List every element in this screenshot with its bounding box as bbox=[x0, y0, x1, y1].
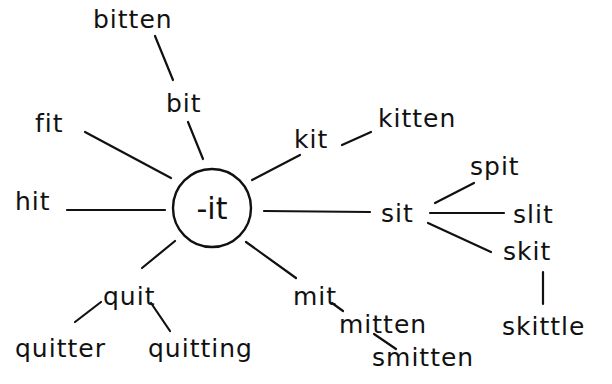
edge-kit-kitten bbox=[342, 132, 371, 145]
edge-it-kit bbox=[252, 155, 300, 180]
word-node-skittle: skittle bbox=[502, 312, 585, 341]
edge-it-sit bbox=[264, 211, 370, 212]
word-node-quitting: quitting bbox=[148, 334, 253, 363]
center-hub: -it bbox=[173, 169, 251, 247]
edge-it-mit bbox=[246, 242, 296, 278]
word-node-smitten: smitten bbox=[372, 343, 474, 372]
word-family-diagram: -it bittenbitfitkitkittenhitsitspitslits… bbox=[0, 0, 612, 384]
edge-sit-skit bbox=[428, 223, 491, 252]
edge-quit-quitter bbox=[75, 302, 101, 322]
word-node-hit: hit bbox=[15, 187, 51, 216]
word-node-fit: fit bbox=[35, 109, 64, 138]
edge-it-quit bbox=[142, 241, 175, 268]
word-node-sit: sit bbox=[381, 199, 414, 228]
edge-it-fit bbox=[85, 132, 171, 178]
word-node-kitten: kitten bbox=[378, 104, 456, 133]
word-node-mit: mit bbox=[293, 282, 337, 311]
word-node-quit: quit bbox=[103, 282, 155, 311]
edge-bit-bitten bbox=[155, 36, 173, 80]
word-node-mitten: mitten bbox=[339, 310, 427, 339]
word-nodes: bittenbitfitkitkittenhitsitspitslitskits… bbox=[15, 5, 585, 372]
word-node-kit: kit bbox=[294, 125, 328, 154]
word-node-skit: skit bbox=[503, 237, 551, 266]
edge-it-bit bbox=[188, 122, 203, 159]
word-node-bit: bit bbox=[166, 89, 202, 118]
word-node-quitter: quitter bbox=[15, 334, 106, 363]
edge-sit-spit bbox=[435, 183, 474, 203]
hub-label: -it bbox=[197, 191, 228, 226]
word-node-spit: spit bbox=[470, 152, 520, 181]
word-node-bitten: bitten bbox=[93, 5, 173, 34]
word-node-slit: slit bbox=[513, 200, 554, 229]
